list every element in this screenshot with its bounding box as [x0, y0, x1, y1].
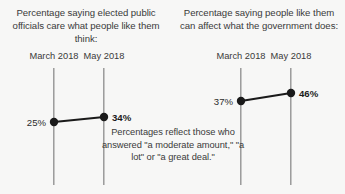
- axis-label-right-march: March 2018: [216, 50, 265, 62]
- chart-panel-left: Percentage saying elected public officia…: [0, 0, 172, 194]
- value-label-left-march: 25%: [27, 117, 46, 128]
- value-label-right-march: 37%: [214, 96, 233, 107]
- connector-line-left: [54, 117, 104, 122]
- panel-title-right: Percentage saying people like them can a…: [179, 6, 339, 32]
- value-label-left-may: 34%: [112, 112, 131, 123]
- axis-line-left-march: [53, 68, 54, 185]
- axis-label-left-may: May 2018: [84, 50, 125, 62]
- chart-footnote: Percentages reflect those who answered "…: [96, 126, 250, 164]
- chart-figure: Percentage saying elected public officia…: [0, 0, 345, 194]
- axis-line-right-may: [290, 68, 291, 185]
- axis-label-right-may: May 2018: [271, 50, 312, 62]
- axis-label-left-march: March 2018: [29, 50, 78, 62]
- panel-title-left: Percentage saying elected public officia…: [6, 6, 166, 46]
- chart-panel-right: Percentage saying people like them can a…: [173, 0, 345, 194]
- value-label-right-may: 46%: [299, 88, 318, 99]
- connector-line-right: [241, 93, 291, 101]
